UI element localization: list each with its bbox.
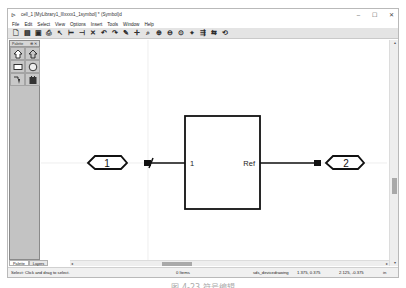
status-item-count: 0 Items xyxy=(176,270,190,275)
status-mode: sds_devicedrawing xyxy=(253,270,289,275)
drawing-canvas[interactable]: 1 1 Ref 2 xyxy=(41,40,387,266)
status-coord-1: 1.375, 0.375 xyxy=(297,270,320,275)
scroll-right-arrow-icon[interactable]: ▸ xyxy=(386,261,388,266)
redo-icon[interactable]: ↷ xyxy=(111,29,119,37)
maximize-button[interactable]: ☐ xyxy=(372,11,377,18)
circle-tool[interactable] xyxy=(25,60,40,73)
circle-tool-icon xyxy=(28,62,38,72)
fit-width-icon[interactable]: ⊢ xyxy=(67,29,75,37)
image-tool-icon xyxy=(28,75,38,85)
close-button[interactable]: ✕ xyxy=(389,11,394,18)
rectangle-tool-icon xyxy=(13,62,23,72)
horizontal-scroll-thumb[interactable] xyxy=(162,262,192,266)
right-pin-label: Ref xyxy=(243,159,256,168)
tab-layers[interactable]: Layers xyxy=(29,260,48,266)
flip-icon[interactable]: ⇆ xyxy=(210,29,218,37)
output-pin-tool[interactable] xyxy=(25,47,40,60)
image-tool[interactable] xyxy=(25,73,40,86)
status-bar: Select: Click and drag to select. 0 Item… xyxy=(8,267,398,277)
minimize-button[interactable]: – xyxy=(357,12,360,18)
open-icon[interactable]: ▤ xyxy=(23,29,31,37)
input-pin-tool[interactable] xyxy=(10,47,25,60)
snap-icon[interactable]: ⌖ xyxy=(188,29,196,37)
delete-icon[interactable]: ✕ xyxy=(89,29,97,37)
undo-icon[interactable]: ↶ xyxy=(100,29,108,37)
left-port-number: 1 xyxy=(104,158,110,169)
print-icon[interactable]: ⎙ xyxy=(45,29,53,37)
properties-icon[interactable]: ✎ xyxy=(122,29,130,37)
symbol-drawing: 1 1 Ref 2 xyxy=(41,40,387,266)
menu-view[interactable]: View xyxy=(55,22,65,27)
rotate-icon[interactable]: ⟲ xyxy=(221,29,229,37)
window-title: cell_1 [MyLibrary1_lllxxxx1_1symbol] * (… xyxy=(21,12,122,17)
horizontal-scrollbar[interactable]: ◂ ▸ xyxy=(70,260,389,266)
scroll-left-arrow-icon[interactable]: ◂ xyxy=(71,261,73,266)
menu-help[interactable]: Help xyxy=(144,22,153,27)
toolbar: 🗋 ▤ ▣ ⎙ ↖ ⊢ ⊣ ✕ ↶ ↷ ✎ ✛ ⌕ ⊕ ⊖ ⊙ ⌖ ⇶ ⇆ ⟲ xyxy=(8,28,398,39)
menu-select[interactable]: Select xyxy=(37,22,50,27)
scroll-up-arrow-icon[interactable]: ▴ xyxy=(390,40,399,46)
app-window: ⊳ cell_1 [MyLibrary1_lllxxxx1_1symbol] *… xyxy=(7,8,399,278)
right-pin-connector[interactable] xyxy=(314,160,321,166)
line-tool[interactable] xyxy=(10,73,25,86)
fit-height-icon[interactable]: ⊣ xyxy=(78,29,86,37)
zoom-out-icon[interactable]: ⊖ xyxy=(166,29,174,37)
right-port-number: 2 xyxy=(343,158,349,169)
palette-panel: Palette ⊕ ✕ xyxy=(9,40,40,260)
rectangle-tool[interactable] xyxy=(10,60,25,73)
menu-file[interactable]: File xyxy=(12,22,19,27)
input-pin-tool-icon xyxy=(13,49,23,59)
zoom-in-icon[interactable]: ⊕ xyxy=(155,29,163,37)
scroll-down-arrow-icon[interactable]: ▾ xyxy=(390,260,399,266)
select-icon[interactable]: ↖ xyxy=(56,29,64,37)
tab-palette[interactable]: Palette xyxy=(9,260,29,266)
title-bar: ⊳ cell_1 [MyLibrary1_lllxxxx1_1symbol] *… xyxy=(8,9,398,20)
status-coord-2: 2.125, -0.375 xyxy=(339,270,364,275)
menu-window[interactable]: Window xyxy=(123,22,139,27)
line-tool-icon xyxy=(13,75,23,85)
vertical-scrollbar[interactable]: ▴ ▾ xyxy=(389,40,398,266)
menu-bar: File Edit Select View Options Insert Too… xyxy=(8,20,398,28)
vertical-scroll-thumb[interactable] xyxy=(392,178,397,194)
align-icon[interactable]: ⇶ xyxy=(199,29,207,37)
palette-close-icon[interactable]: ✕ xyxy=(34,42,37,46)
menu-insert[interactable]: Insert xyxy=(91,22,103,27)
app-logo-icon: ⊳ xyxy=(11,12,19,18)
status-units: in xyxy=(383,270,386,275)
menu-edit[interactable]: Edit xyxy=(24,22,32,27)
save-icon[interactable]: ▣ xyxy=(34,29,42,37)
move-icon[interactable]: ✛ xyxy=(133,29,141,37)
new-icon[interactable]: 🗋 xyxy=(12,29,20,37)
palette-title: Palette xyxy=(12,42,23,46)
pin-icon[interactable]: ⊕ xyxy=(30,42,33,46)
window-controls: – ☐ ✕ xyxy=(357,9,394,20)
figure-caption: 图 4-23 符号编辑 xyxy=(0,283,406,288)
menu-options[interactable]: Options xyxy=(70,22,86,27)
panel-tabs: Palette Layers xyxy=(9,260,69,266)
left-pin-label: 1 xyxy=(190,159,194,168)
output-pin-tool-icon xyxy=(28,49,38,59)
palette-grid xyxy=(10,47,39,86)
zoom-area-icon[interactable]: ⌕ xyxy=(144,29,152,37)
zoom-fit-icon[interactable]: ⊙ xyxy=(177,29,185,37)
status-hint: Select: Click and drag to select. xyxy=(11,270,70,275)
menu-tools[interactable]: Tools xyxy=(107,22,118,27)
